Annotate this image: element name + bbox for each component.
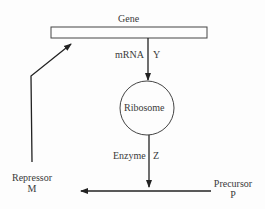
gene-label: Gene [118,13,139,24]
ribosome-label: Ribosome [124,102,165,113]
gene-regulation-diagram: Gene mRNA Y Ribosome Enzyme Z Repressor … [0,0,265,209]
repressor-symbol: M [10,183,54,194]
enzyme-label: Enzyme [113,150,146,161]
repressor-feedback-arrow [31,44,71,162]
enzyme-symbol: Z [153,150,159,161]
precursor-symbol: P [210,189,256,200]
gene-bar [51,27,207,38]
mrna-label: mRNA [115,49,144,60]
precursor-label: Precursor [210,178,256,189]
mrna-symbol: Y [153,49,160,60]
repressor-label: Repressor [10,172,54,183]
